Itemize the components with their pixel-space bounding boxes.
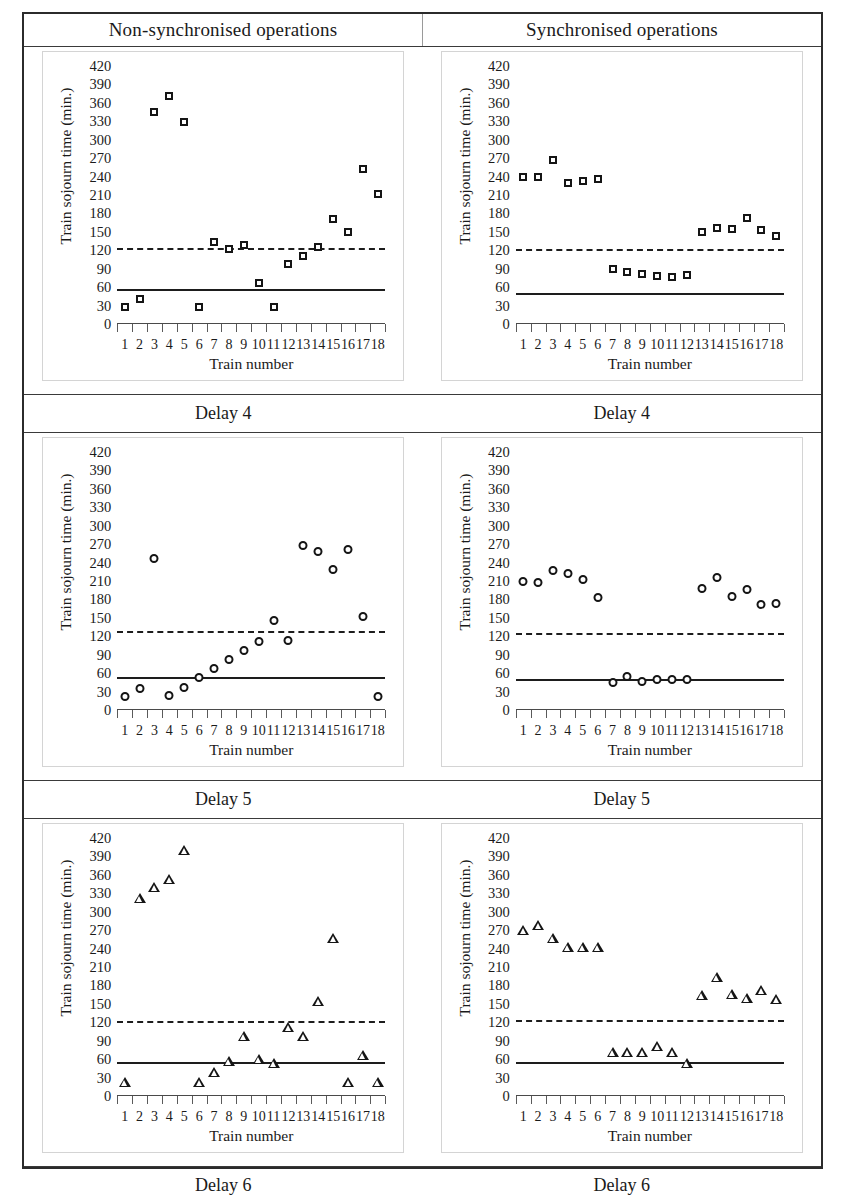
data-point (609, 265, 617, 273)
plot-area (117, 66, 385, 324)
data-point (269, 616, 278, 625)
x-axis-tick (739, 1096, 740, 1104)
data-point (314, 243, 322, 251)
data-point (225, 245, 233, 253)
x-axis-tick (635, 324, 636, 332)
data-point (757, 600, 766, 609)
y-tick-label: 270 (476, 923, 510, 938)
x-axis-tick (575, 710, 576, 718)
x-tick-label: 16 (341, 724, 355, 738)
x-tick-label: 16 (740, 1110, 754, 1124)
x-axis-tick (680, 710, 681, 718)
x-tick-label: 14 (311, 724, 325, 738)
data-point (195, 673, 204, 682)
x-tick-label: 10 (650, 724, 664, 738)
x-axis-tick (709, 324, 710, 332)
triangle-inner (345, 1080, 351, 1086)
y-tick-label: 240 (476, 556, 510, 571)
x-tick-label: 14 (311, 1110, 325, 1124)
x-axis-tick (281, 710, 282, 718)
chart-cell-delay4-nonsync: Train sojourn time (min.)420390360330300… (24, 47, 423, 394)
triangle-inner (624, 1050, 630, 1056)
x-tick-label: 18 (371, 1110, 385, 1124)
x-axis-tick (117, 710, 118, 718)
data-point (254, 637, 263, 646)
data-point (121, 303, 129, 311)
triangle-inner (181, 848, 187, 854)
chart-row-delay4: Train sojourn time (min.)420390360330300… (24, 47, 821, 395)
data-point (519, 577, 528, 586)
x-tick-label: 3 (549, 338, 556, 352)
x-tick-labels: 123456789101112131415161718 (117, 338, 385, 356)
x-axis-tick (162, 710, 163, 718)
y-tick-label: 150 (476, 997, 510, 1012)
x-axis-tick (680, 1096, 681, 1104)
y-tick-label: 90 (77, 1034, 111, 1049)
data-point (180, 118, 188, 126)
x-axis-label: Train number (117, 355, 385, 373)
data-point (534, 578, 543, 587)
triangle-inner (270, 1061, 276, 1067)
data-point (253, 1054, 265, 1064)
triangle-inner (683, 1061, 689, 1067)
data-point (712, 573, 721, 582)
caption-delay4-nonsync: Delay 4 (24, 395, 423, 432)
data-point (579, 177, 587, 185)
data-point (163, 874, 175, 884)
chart-row-delay6: Train sojourn time (min.)420390360330300… (24, 819, 821, 1167)
chart-row-delay5: Train sojourn time (min.)420390360330300… (24, 433, 821, 781)
x-tick-label: 5 (181, 724, 188, 738)
data-point (299, 541, 308, 550)
y-tick-label: 120 (476, 243, 510, 258)
threshold-reference-line (516, 633, 784, 635)
x-axis-tick (560, 324, 561, 332)
threshold-reference-line (117, 631, 385, 633)
y-tick-label: 0 (476, 703, 510, 718)
data-point (268, 1058, 280, 1068)
data-point (195, 303, 203, 311)
x-tick-label: 6 (196, 1110, 203, 1124)
triangle-inner (535, 923, 541, 929)
x-tick-label: 16 (740, 724, 754, 738)
data-point (373, 692, 382, 701)
x-axis-tick (147, 324, 148, 332)
x-axis-tick (385, 710, 386, 718)
x-tick-label: 17 (754, 724, 768, 738)
data-point (224, 655, 233, 664)
x-tick-label: 12 (281, 338, 295, 352)
x-tick-label: 18 (371, 724, 385, 738)
data-point (623, 268, 631, 276)
x-tick-labels: 123456789101112131415161718 (516, 338, 784, 356)
x-tick-label: 2 (136, 338, 143, 352)
x-axis-tick (266, 324, 267, 332)
x-axis-tick (207, 324, 208, 332)
y-tick-label: 270 (77, 151, 111, 166)
y-tick-label: 270 (77, 923, 111, 938)
y-tick-label: 150 (77, 225, 111, 240)
x-tick-label: 15 (725, 338, 739, 352)
x-axis-tick (117, 324, 118, 332)
x-axis-tick (251, 324, 252, 332)
triangle-inner (639, 1050, 645, 1056)
x-tick-label: 10 (650, 338, 664, 352)
y-tick-label: 330 (476, 886, 510, 901)
x-tick-label: 9 (639, 1110, 646, 1124)
data-point (592, 942, 604, 952)
y-tick-label: 60 (476, 280, 510, 295)
x-axis-tick (385, 324, 386, 332)
x-axis-tick (221, 710, 222, 718)
y-tick-label: 180 (476, 206, 510, 221)
caption-row-delay5: Delay 5 Delay 5 (24, 781, 821, 819)
x-axis-tick (784, 710, 785, 718)
y-tick-label: 180 (476, 592, 510, 607)
table-header-row: Non-synchronised operations Synchronised… (24, 14, 821, 47)
y-tick-label: 420 (476, 831, 510, 846)
data-point (681, 1058, 693, 1068)
data-point (359, 165, 367, 173)
x-axis-tick (117, 1096, 118, 1104)
y-tick-label: 360 (476, 868, 510, 883)
y-tick-label: 210 (476, 574, 510, 589)
triangle-inner (669, 1050, 675, 1056)
x-axis-tick (516, 324, 517, 332)
